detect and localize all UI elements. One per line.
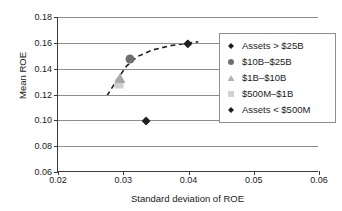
x-axis-tick-label: 0.05 [245, 176, 263, 185]
y-axis-tick-label: 0.14 [34, 64, 52, 73]
scatter-chart: 0.060.080.100.120.140.160.180.020.030.04… [0, 0, 342, 211]
chart-legend: Assets > $25B$10B–$25B$1B–$10B$500M–$1BA… [219, 33, 336, 123]
x-axis-tick-label: 0.04 [180, 176, 198, 185]
y-axis-tick-label: 0.18 [34, 13, 52, 22]
diamond-marker-icon [225, 107, 237, 113]
y-axis-tick-label: 0.10 [34, 116, 52, 125]
legend-item-label: $500M–$1B [242, 89, 293, 99]
y-axis-tick-label: 0.16 [34, 38, 52, 47]
x-axis-tick-label: 0.03 [114, 176, 132, 185]
y-axis-tick [54, 120, 58, 121]
y-axis-tick [54, 43, 58, 44]
y-axis-tick [54, 146, 58, 147]
circle-marker-icon [225, 59, 237, 65]
y-axis-tick-label: 0.12 [34, 90, 52, 99]
legend-item-label: Assets < $500M [242, 105, 310, 115]
y-axis-title: Mean ROE [17, 36, 28, 116]
legend-item[interactable]: $10B–$25B [225, 54, 330, 70]
x-axis-tick-label: 0.02 [49, 176, 67, 185]
gridline [58, 146, 318, 147]
diamond-marker-icon [225, 43, 237, 49]
legend-item-label: $1B–$10B [242, 73, 286, 83]
gridline [58, 17, 318, 18]
legend-item-label: $10B–$25B [242, 57, 292, 67]
y-axis-tick [54, 69, 58, 70]
legend-item-label: Assets > $25B [242, 41, 304, 51]
x-axis-tick-label: 0.06 [310, 176, 328, 185]
square-marker-icon [225, 91, 237, 97]
legend-item[interactable]: $1B–$10B [225, 70, 330, 86]
y-axis-tick-label: 0.08 [34, 142, 52, 151]
triangle-marker-icon [225, 75, 237, 81]
y-axis-tick [54, 17, 58, 18]
y-axis-tick [54, 95, 58, 96]
legend-item[interactable]: $500M–$1B [225, 86, 330, 102]
legend-item[interactable]: Assets < $500M [225, 102, 330, 118]
x-axis-title: Standard deviation of ROE [57, 193, 318, 204]
legend-item[interactable]: Assets > $25B [225, 38, 330, 54]
data-point [126, 54, 135, 63]
